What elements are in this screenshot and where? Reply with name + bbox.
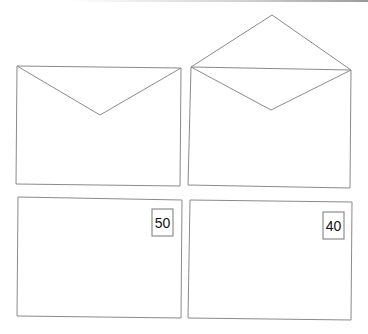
open-envelope [188,15,351,188]
open-envelope-flap-open [191,15,351,70]
open-envelope-inner-fold [191,67,351,110]
closed-envelope-body [16,66,181,186]
stamp-50-label: 50 [152,209,173,236]
open-envelope-body [188,67,351,188]
closed-envelope-flap [17,66,181,115]
closed-envelope [16,66,181,186]
envelope-diagram [0,0,368,334]
stamp-40-label: 40 [323,212,344,239]
